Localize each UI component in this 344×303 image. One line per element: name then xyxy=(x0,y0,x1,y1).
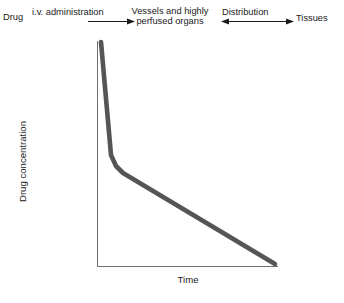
flow-node-drug: Drug xyxy=(3,12,23,22)
flow-chain: Drug i.v. administration Vessels and hig… xyxy=(0,0,344,34)
arrow-left-right-icon xyxy=(221,17,294,26)
x-axis-label: Time xyxy=(140,274,236,285)
flow-node-tissues: Tissues xyxy=(296,13,328,23)
y-axis-label: Drug concentration xyxy=(17,102,28,222)
flow-node-iv-administration: i.v. administration xyxy=(32,7,104,17)
flow-node-vessels-and-highly-perfused-organs: Vessels and highly perfused organs xyxy=(122,6,218,27)
flow-node-distribution: Distribution xyxy=(222,7,269,17)
concentration-curve xyxy=(101,42,275,264)
drug-concentration-chart: Drug concentration Time xyxy=(0,30,344,303)
chart-canvas xyxy=(0,30,344,303)
